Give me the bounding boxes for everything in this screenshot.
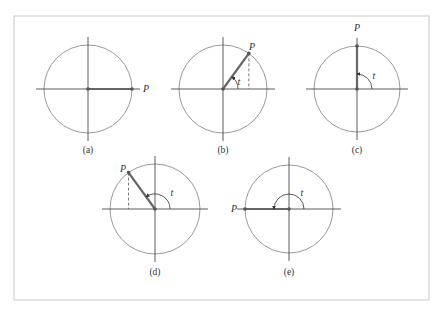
point-p — [247, 52, 251, 56]
point-p-label: P — [230, 203, 237, 214]
angle-t-label: t — [171, 187, 174, 198]
panel-b: Pt(b) — [171, 37, 275, 156]
unit-circle-figure: P(a)Pt(b)Pt(c)Pt(d)Pt(e) — [0, 0, 447, 315]
panels-group: P(a)Pt(b)Pt(c)Pt(d)Pt(e) — [36, 22, 408, 278]
point-p — [243, 207, 247, 211]
point-p-label: P — [248, 41, 255, 52]
origin-point — [86, 87, 90, 91]
panel-caption: (d) — [149, 267, 160, 278]
point-p-label: P — [353, 22, 360, 33]
point-p-label: P — [119, 163, 126, 174]
panel-a: P(a) — [36, 37, 149, 156]
radius-segment — [223, 53, 249, 89]
point-p-label: P — [142, 83, 149, 94]
panel-caption: (b) — [217, 145, 228, 156]
panel-caption: (c) — [352, 145, 363, 156]
origin-point — [287, 207, 291, 211]
point-p — [127, 171, 131, 175]
angle-arc — [357, 74, 372, 89]
radius-segment — [129, 173, 155, 209]
point-p — [355, 44, 359, 48]
angle-t-label: t — [373, 70, 376, 81]
panel-c: Pt(c) — [306, 22, 408, 156]
angle-t-label: t — [301, 187, 304, 198]
origin-point — [153, 207, 157, 211]
point-p — [130, 87, 134, 91]
panel-caption: (a) — [83, 145, 94, 156]
panel-caption: (e) — [284, 267, 295, 278]
origin-point — [355, 87, 359, 91]
origin-point — [221, 87, 225, 91]
panel-d: Pt(d) — [102, 156, 208, 278]
panel-e: Pt(e) — [230, 157, 341, 278]
angle-t-label: t — [238, 76, 241, 87]
figure-frame — [14, 16, 429, 300]
